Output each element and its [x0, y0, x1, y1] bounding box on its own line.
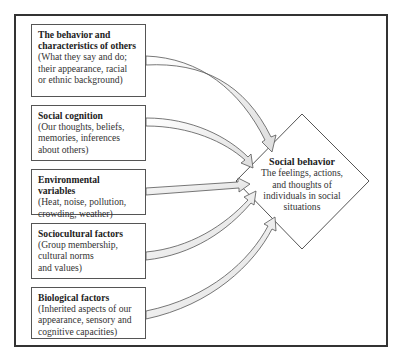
arrow-environmental — [146, 178, 250, 195]
arrow-sociocultural — [146, 191, 256, 260]
input-description: (Inherited aspects of our appearance, se… — [38, 303, 139, 337]
input-description: (Our thoughts, beliefs, memories, infere… — [38, 121, 139, 155]
arrow-social-cognition — [146, 118, 253, 168]
input-box-sociocultural: Sociocultural factors (Group membership,… — [31, 223, 146, 279]
input-description: (What they say and do; their appearance,… — [38, 51, 139, 85]
input-box-social-cognition: Social cognition (Our thoughts, beliefs,… — [31, 105, 146, 161]
input-box-behavior-others: The behavior and characteristics of othe… — [31, 24, 146, 97]
output-title: Social behavior — [244, 156, 360, 167]
input-title: The behavior and characteristics of othe… — [38, 29, 139, 51]
input-description: (Group membership, cultural norms and va… — [38, 239, 139, 273]
input-title: Biological factors — [38, 292, 139, 303]
input-box-environmental: Environmental variables (Heat, noise, po… — [31, 169, 146, 215]
input-description: (Heat, noise, pollution, crowding, weath… — [38, 196, 139, 218]
social-behavior-label: Social behavior The feelings, actions, a… — [244, 156, 360, 212]
input-title: Environmental variables — [38, 174, 139, 196]
input-title: Sociocultural factors — [38, 228, 139, 239]
output-description: The feelings, actions, and thoughts of i… — [244, 167, 360, 212]
input-title: Social cognition — [38, 110, 139, 121]
input-box-biological: Biological factors (Inherited aspects of… — [31, 287, 146, 339]
